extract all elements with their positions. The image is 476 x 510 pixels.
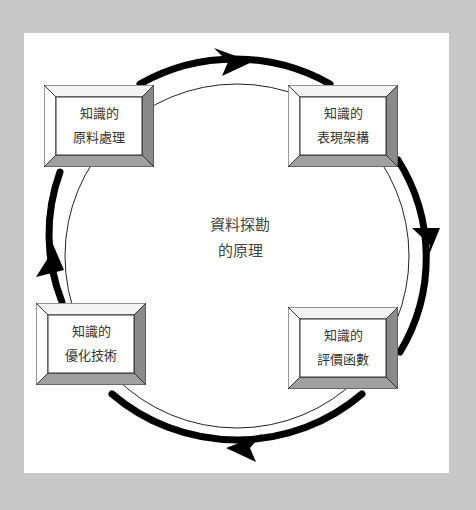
node-label-line1: 知識的 [80, 102, 119, 126]
arc-bottom [112, 394, 362, 440]
node-top-right: 知識的 表現架構 [288, 85, 398, 167]
node-label-line2: 評價函數 [317, 348, 369, 372]
node-label-line1: 知識的 [324, 102, 363, 126]
node-label-line1: 知識的 [324, 324, 363, 348]
center-title-line2: 的原理 [170, 238, 310, 264]
node-bottom-right: 知識的 評價函數 [288, 307, 398, 389]
arc-left [49, 172, 62, 302]
center-title-line1: 資料探勘 [170, 212, 310, 238]
center-title: 資料探勘 的原理 [170, 212, 310, 264]
node-bottom-left: 知識的 優化技術 [36, 303, 146, 385]
arc-right [398, 160, 426, 352]
node-label-line2: 原料處理 [73, 126, 125, 150]
node-label-line2: 表現架構 [317, 126, 369, 150]
node-label-line2: 優化技術 [65, 344, 117, 368]
node-top-left: 知識的 原料處理 [44, 85, 154, 167]
node-label-line1: 知識的 [72, 320, 111, 344]
